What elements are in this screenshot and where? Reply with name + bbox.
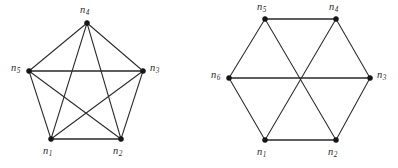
vertex-label-subscript: 1 xyxy=(49,150,53,158)
vertex-label-base: n xyxy=(257,1,262,12)
graph-vertex-n4 xyxy=(85,21,90,26)
graph-edge-n3-n4 xyxy=(336,19,370,78)
graph-vertex-n3 xyxy=(141,69,146,74)
vertex-label-n3: n3 xyxy=(150,63,159,74)
graph-vertex-n2 xyxy=(119,137,124,142)
graph-edge-n6-n1 xyxy=(229,78,265,140)
figure-panel-pentagon: n1n2n3n4n5 xyxy=(0,0,199,168)
graph-edge-n1-n4 xyxy=(51,23,87,139)
vertex-label-subscript: 4 xyxy=(335,6,339,14)
graph-vertex-n1 xyxy=(263,138,268,143)
vertex-label-subscript: 6 xyxy=(217,74,221,82)
vertex-label-subscript: 2 xyxy=(119,150,123,158)
vertex-group xyxy=(227,17,373,143)
edge-group xyxy=(29,23,143,139)
vertex-label-base: n xyxy=(329,1,334,12)
vertex-label-n4: n4 xyxy=(80,5,89,16)
graph-vertex-n6 xyxy=(227,76,232,81)
graph-edge-n2-n4 xyxy=(87,23,121,139)
graph-edge-n5-n6 xyxy=(229,19,265,78)
graph-edge-n3-n4 xyxy=(87,23,143,71)
graph-vertex-n2 xyxy=(334,138,339,143)
graph-vertex-n4 xyxy=(334,17,339,22)
vertex-label-n2: n2 xyxy=(113,146,122,157)
vertex-label-n1: n1 xyxy=(257,147,266,158)
vertex-label-n2: n2 xyxy=(328,147,337,158)
edge-group xyxy=(229,19,370,140)
vertex-label-base: n xyxy=(377,69,382,80)
figure-panel-hexagon: n1n2n3n4n5n6 xyxy=(199,0,398,168)
vertex-group xyxy=(27,21,146,142)
vertex-label-base: n xyxy=(113,145,118,156)
vertex-label-subscript: 3 xyxy=(156,67,160,75)
vertex-label-subscript: 5 xyxy=(263,6,267,14)
vertex-label-n6: n6 xyxy=(211,70,220,81)
figure-board: n1n2n3n4n5 n1n2n3n4n5n6 xyxy=(0,0,398,168)
graph-edge-n2-n3 xyxy=(336,78,370,140)
vertex-label-base: n xyxy=(80,4,85,15)
vertex-label-n1: n1 xyxy=(43,146,52,157)
vertex-label-base: n xyxy=(150,62,155,73)
hexagon-graph-canvas xyxy=(199,0,398,168)
vertex-label-base: n xyxy=(43,145,48,156)
vertex-label-subscript: 2 xyxy=(334,151,338,159)
vertex-label-subscript: 1 xyxy=(263,151,267,159)
vertex-label-n5: n5 xyxy=(11,63,20,74)
graph-vertex-n1 xyxy=(49,137,54,142)
vertex-label-base: n xyxy=(257,146,262,157)
vertex-label-n5: n5 xyxy=(257,2,266,13)
graph-edge-n2-n3 xyxy=(121,71,143,139)
pentagon-graph-canvas xyxy=(0,0,199,168)
vertex-label-subscript: 3 xyxy=(383,74,387,82)
graph-edge-n1-n3 xyxy=(51,71,143,139)
vertex-label-subscript: 5 xyxy=(17,67,21,75)
vertex-label-base: n xyxy=(11,62,16,73)
vertex-label-subscript: 4 xyxy=(86,9,90,17)
graph-vertex-n5 xyxy=(263,17,268,22)
vertex-label-n3: n3 xyxy=(377,70,386,81)
graph-vertex-n3 xyxy=(368,76,373,81)
vertex-label-n4: n4 xyxy=(329,2,338,13)
graph-edge-n4-n5 xyxy=(29,23,87,71)
vertex-label-base: n xyxy=(211,69,216,80)
graph-edge-n2-n5 xyxy=(29,71,121,139)
graph-edge-n5-n1 xyxy=(29,71,51,139)
graph-vertex-n5 xyxy=(27,69,32,74)
vertex-label-base: n xyxy=(328,146,333,157)
